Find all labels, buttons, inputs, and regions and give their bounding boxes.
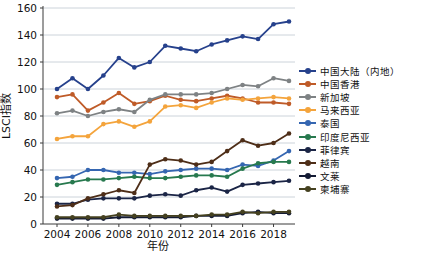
- data-point: [287, 131, 292, 136]
- data-point: [194, 173, 199, 178]
- data-point: [225, 212, 230, 217]
- legend-item-4: 泰国: [299, 117, 400, 130]
- data-point: [132, 110, 137, 115]
- data-point: [70, 180, 75, 185]
- data-point: [117, 119, 122, 124]
- data-point: [117, 170, 122, 175]
- legend-item-9: 柬埔寨: [299, 183, 400, 196]
- data-point: [117, 196, 122, 201]
- data-point: [209, 212, 214, 217]
- data-point: [117, 176, 122, 181]
- data-point: [225, 189, 230, 194]
- data-point: [287, 149, 292, 154]
- data-point: [240, 166, 245, 171]
- legend-line-dot-marker: [299, 162, 316, 164]
- legend-line-dot-marker: [299, 83, 316, 85]
- series-line-中国香港: [57, 93, 289, 111]
- legend-dot-icon: [305, 94, 311, 100]
- data-point: [178, 98, 183, 103]
- y-tick-label: 120: [17, 56, 37, 68]
- data-point: [178, 103, 183, 108]
- data-point: [256, 161, 261, 166]
- series-line-菲律宾: [57, 181, 289, 204]
- data-point: [194, 162, 199, 167]
- data-point: [101, 110, 106, 115]
- data-point: [240, 98, 245, 103]
- data-point: [256, 100, 261, 105]
- data-point: [86, 134, 91, 139]
- legend-label: 新加坡: [320, 90, 350, 104]
- data-point: [271, 141, 276, 146]
- legend-item-8: 文莱: [299, 170, 400, 183]
- x-tick-label: 2006: [75, 228, 102, 240]
- data-point: [271, 95, 276, 100]
- x-tick-label: 2014: [198, 228, 225, 240]
- data-point: [271, 100, 276, 105]
- data-point: [101, 73, 106, 78]
- data-point: [256, 181, 261, 186]
- legend-item-7: 越南: [299, 156, 400, 169]
- data-point: [287, 102, 292, 107]
- data-point: [178, 168, 183, 173]
- x-tick-label: 2012: [167, 228, 194, 240]
- legend-line-dot-marker: [299, 188, 316, 190]
- legend-label: 马来西亚: [320, 103, 360, 117]
- data-point: [209, 96, 214, 101]
- data-point: [148, 172, 153, 177]
- data-point: [287, 79, 292, 84]
- legend-dot-icon: [305, 147, 311, 153]
- data-point: [178, 174, 183, 179]
- data-point: [287, 210, 292, 215]
- series-line-马来西亚: [57, 97, 289, 139]
- x-tick-label: 2010: [136, 228, 163, 240]
- x-axis-title: 年份: [147, 239, 169, 253]
- legend-dot-icon: [305, 134, 311, 140]
- legend-label: 菲律宾: [320, 143, 350, 157]
- data-point: [163, 214, 168, 219]
- data-point: [148, 119, 153, 124]
- legend-label: 印度尼西亚: [320, 130, 370, 144]
- data-point: [132, 174, 137, 179]
- data-point: [86, 196, 91, 201]
- x-tick-label: 2004: [44, 228, 71, 240]
- data-point: [148, 214, 153, 219]
- data-point: [287, 160, 292, 165]
- x-tick-label: 2016: [229, 228, 256, 240]
- data-point: [101, 177, 106, 182]
- data-point: [148, 60, 153, 65]
- legend-line-dot-marker: [299, 109, 316, 111]
- data-point: [271, 180, 276, 185]
- data-point: [240, 34, 245, 39]
- data-point: [86, 215, 91, 220]
- data-point: [148, 98, 153, 103]
- data-point: [240, 210, 245, 215]
- data-point: [101, 100, 106, 105]
- data-point: [163, 176, 168, 181]
- legend-label: 文莱: [320, 169, 340, 183]
- legend-dot-icon: [305, 186, 311, 192]
- data-point: [101, 168, 106, 173]
- data-point: [256, 211, 261, 216]
- data-point: [287, 179, 292, 184]
- data-point: [225, 38, 230, 43]
- data-point: [240, 183, 245, 188]
- legend-dot-icon: [305, 107, 311, 113]
- legend-label: 中国香港: [320, 77, 360, 91]
- data-point: [209, 160, 214, 165]
- data-point: [86, 177, 91, 182]
- data-point: [178, 193, 183, 198]
- legend-line-dot-marker: [299, 122, 316, 124]
- data-point: [225, 87, 230, 92]
- data-point: [209, 42, 214, 47]
- data-point: [194, 214, 199, 219]
- data-point: [225, 174, 230, 179]
- data-point: [271, 76, 276, 81]
- data-point: [209, 91, 214, 96]
- legend-item-0: 中国大陆（内地）: [299, 64, 400, 77]
- legend-line-dot-marker: [299, 149, 316, 151]
- legend-dot-icon: [305, 160, 311, 166]
- series-line-柬埔寨: [57, 212, 289, 217]
- data-point: [132, 191, 137, 196]
- data-point: [55, 95, 60, 100]
- y-tick-label: 0: [30, 218, 37, 230]
